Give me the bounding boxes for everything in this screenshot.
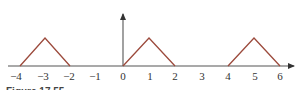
- pulse-1: [20, 38, 70, 66]
- tick-label: −3: [37, 70, 49, 82]
- tick-label: 5: [252, 70, 258, 82]
- pulse-2: [123, 38, 175, 66]
- figure-caption: Figure 17.55: [6, 86, 65, 90]
- waveform-diagram: −4 −3 −2 −1 0 1 2 3 4 5 6 Figure 17.55: [0, 0, 300, 90]
- tick-label: −4: [10, 70, 22, 82]
- tick-label: 6: [277, 70, 283, 82]
- tick-label: 1: [147, 70, 153, 82]
- tick-label: 3: [199, 70, 205, 82]
- tick-label: 0: [120, 70, 126, 82]
- tick-label: −2: [63, 70, 75, 82]
- tick-label: 2: [172, 70, 178, 82]
- tick-label: 4: [225, 70, 231, 82]
- pulse-3: [228, 38, 280, 66]
- tick-label: −1: [89, 70, 101, 82]
